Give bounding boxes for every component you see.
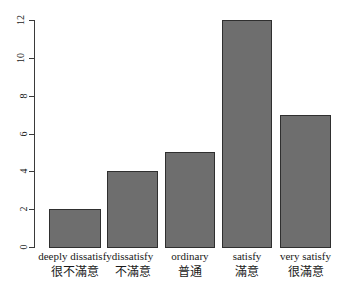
x-axis-category-label-en: very satisfy (246, 249, 348, 264)
bar[interactable] (107, 171, 158, 248)
x-axis-labels: deeply dissatisfy很不滿意dissatisfy不滿意ordina… (0, 249, 348, 295)
y-axis-tick-label: 6 (0, 129, 26, 139)
y-axis-tick-label-text: 8 (19, 93, 29, 98)
bar[interactable] (49, 209, 101, 248)
y-axis-tick-label-text: 10 (16, 53, 26, 63)
bar-chart: 024681012 deeply dissatisfy很不滿意dissatisf… (0, 0, 348, 295)
y-axis-tick (29, 96, 35, 97)
y-axis-tick (29, 58, 35, 59)
y-axis-tick-label-text: 6 (19, 131, 29, 136)
y-axis-tick-label: 2 (0, 204, 26, 214)
y-axis-tick-label: 4 (0, 166, 26, 176)
y-axis-tick (29, 209, 35, 210)
x-axis-category-label: very satisfy很滿意 (246, 249, 348, 281)
y-axis-tick-label: 8 (0, 91, 26, 101)
y-axis-tick-label: 10 (0, 53, 26, 63)
y-axis-tick-label: 12 (0, 15, 26, 25)
y-axis-tick-label-text: 2 (19, 207, 29, 212)
y-axis-tick (29, 247, 35, 248)
bar[interactable] (280, 115, 331, 248)
y-axis-tick (29, 134, 35, 135)
x-axis-category-label-zh: 很滿意 (246, 264, 348, 281)
bar[interactable] (165, 152, 215, 248)
y-axis-tick-label-text: 4 (19, 169, 29, 174)
y-axis-tick (29, 171, 35, 172)
plot-area: 024681012 (0, 0, 348, 248)
y-axis-tick-label-text: 12 (16, 15, 26, 25)
bar[interactable] (222, 20, 272, 248)
y-axis-tick (29, 20, 35, 21)
